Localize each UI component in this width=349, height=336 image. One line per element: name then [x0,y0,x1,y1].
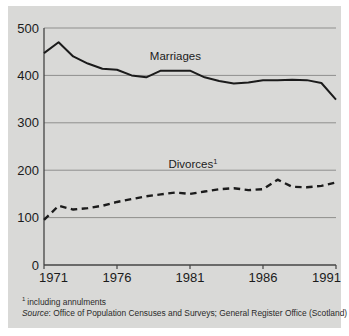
chart-notes: 1including annulments Source: Office of … [22,294,340,319]
x-tick-label-1991: 1991 [312,270,341,285]
source-label: Source [22,308,49,318]
series-line-divorces [44,180,336,220]
divorces-label: Divorces1 [168,157,217,170]
series-annotations-group: MarriagesDivorces1 [150,50,218,170]
footnote-line: 1including annulments [22,294,340,308]
marriages-label: Marriages [150,50,201,62]
data-series-group [44,42,336,220]
x-tick-label-1981: 1981 [176,270,205,285]
y-tick-label-100: 100 [17,210,39,225]
line-chart-svg: 0100200300400500 19711976198119861991 Ma… [8,6,341,291]
source-line: Source: Office of Population Censuses an… [22,308,340,319]
y-axis-ticks-group: 0100200300400500 [17,21,39,273]
x-tick-label-1986: 1986 [249,270,278,285]
y-tick-label-300: 300 [17,115,39,130]
footnote-text: including annulments [27,297,106,307]
x-tick-label-1976: 1976 [103,270,132,285]
chart-figure: 0100200300400500 19711976198119861991 Ma… [8,6,341,328]
y-tick-label-0: 0 [32,258,39,273]
y-tick-label-500: 500 [17,21,39,36]
y-tick-label-400: 400 [17,68,39,83]
x-axis-ticks-group: 19711976198119861991 [39,265,341,285]
chart-plot-area: 0100200300400500 19711976198119861991 Ma… [8,6,341,291]
footnote-marker: 1 [22,296,25,302]
source-text: Office of Population Censuses and Survey… [53,308,347,318]
y-tick-label-200: 200 [17,163,39,178]
x-tick-label-1971: 1971 [39,270,68,285]
